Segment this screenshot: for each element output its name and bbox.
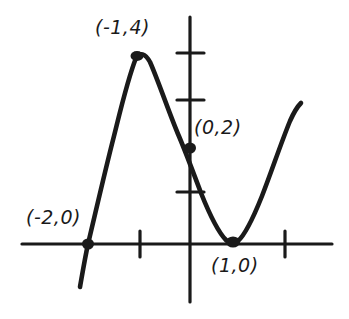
point-marker-y-intercept: [184, 143, 196, 154]
point-label-y-intercept: (0,2): [194, 116, 242, 138]
point-label-left-root: (-2,0): [26, 206, 81, 228]
graph-figure: (-1,4) (0,2) (-2,0) (1,0): [0, 0, 349, 319]
point-label-peak: (-1,4): [95, 16, 150, 38]
point-marker-left-root: [82, 239, 94, 250]
point-label-right-root: (1,0): [211, 254, 259, 276]
graph-canvas: [0, 0, 349, 319]
point-marker-peak: [131, 51, 144, 61]
point-marker-right-root: [226, 237, 240, 248]
